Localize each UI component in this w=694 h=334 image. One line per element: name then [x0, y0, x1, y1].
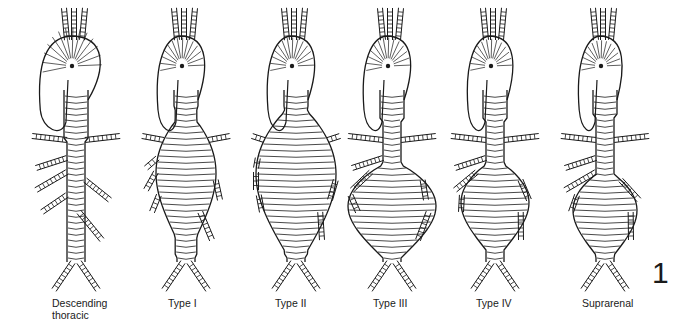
aorta-type-ii: [251, 8, 341, 292]
aorta-type-iv: [451, 8, 540, 292]
label-type-i: Type I: [168, 297, 197, 309]
aorta-suprarenal: [561, 8, 650, 292]
aorta-type-iii: [348, 8, 437, 292]
label-line: thoracic: [52, 309, 107, 321]
label-descending-thoracic: Descending thoracic: [52, 297, 107, 321]
label-suprarenal: Suprarenal: [582, 297, 633, 309]
aorta-descending-thoracic: [32, 8, 121, 292]
aorta-illustrations: [0, 0, 694, 334]
aneurysm-classification-diagram: Descending thoracic Type I Type II Type …: [0, 0, 694, 334]
label-type-iii: Type III: [373, 297, 407, 309]
label-type-ii: Type II: [275, 297, 307, 309]
aorta-type-i: [142, 8, 231, 292]
label-type-iv: Type IV: [476, 297, 512, 309]
figure-number: 1: [652, 258, 669, 288]
label-line: Descending: [52, 297, 107, 309]
